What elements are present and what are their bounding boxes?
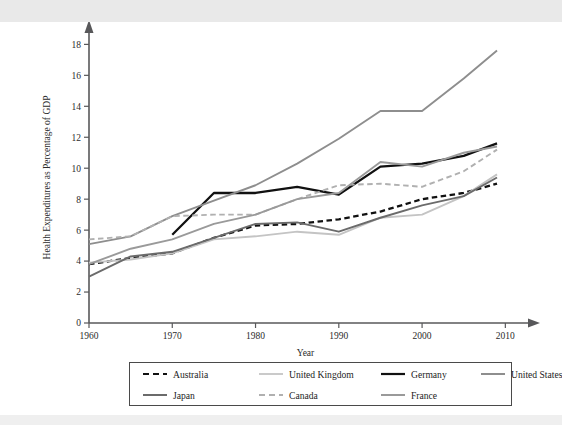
legend-label: Germany [411, 369, 447, 380]
legend-swatch-japan [142, 389, 168, 401]
x-tick-label: 1970 [163, 331, 182, 341]
series-line-united-states [89, 51, 497, 244]
series-line-france [89, 147, 497, 265]
chart-canvas: 024681012141618196019701980199020002010Y… [22, 22, 540, 415]
axis-label-group: 024681012141618196019701980199020002010Y… [42, 40, 515, 358]
legend-label: United Kingdom [289, 369, 354, 380]
axis-group [84, 22, 540, 328]
x-axis-title: Year [297, 348, 315, 358]
y-tick-label: 8 [76, 195, 81, 205]
legend-label: Japan [173, 390, 195, 401]
legend-item-canada[interactable]: Canada [258, 389, 318, 401]
legend-label: France [411, 390, 437, 401]
legend-item-australia[interactable]: Australia [142, 368, 208, 380]
legend-item-germany[interactable]: Germany [380, 368, 447, 380]
y-tick-label: 6 [76, 226, 81, 236]
legend-swatch-france [380, 389, 406, 401]
x-tick-label: 1960 [80, 331, 99, 341]
legend-swatch-united-kingdom [258, 368, 284, 380]
y-tick-label: 0 [76, 318, 81, 328]
y-tick-label: 12 [72, 133, 82, 143]
legend-row-1: AustraliaUnited KingdomGermanyUnited Sta… [130, 363, 511, 385]
chart-legend: AustraliaUnited KingdomGermanyUnited Sta… [129, 362, 512, 406]
legend-swatch-canada [258, 389, 284, 401]
y-tick-label: 10 [72, 164, 82, 174]
y-tick-label: 4 [76, 256, 81, 266]
x-tick-label: 2000 [413, 331, 432, 341]
y-tick-label: 2 [76, 287, 81, 297]
legend-label: Australia [173, 369, 208, 380]
bottom-page-band [0, 415, 562, 425]
top-page-band [0, 0, 562, 22]
legend-item-france[interactable]: France [380, 389, 437, 401]
line-chart-figure: 024681012141618196019701980199020002010Y… [22, 22, 540, 415]
x-tick-label: 1980 [246, 331, 265, 341]
legend-label: United States [511, 369, 562, 380]
series-line-australia [89, 184, 497, 264]
page-sheet: 024681012141618196019701980199020002010Y… [22, 22, 540, 415]
legend-item-united-states[interactable]: United States [480, 368, 562, 380]
legend-swatch-germany [380, 368, 406, 380]
y-axis-arrow [85, 22, 94, 33]
legend-item-united-kingdom[interactable]: United Kingdom [258, 368, 354, 380]
x-tick-label: 2010 [496, 331, 515, 341]
legend-row-2: JapanCanadaFrance [130, 384, 511, 406]
series-group [89, 51, 497, 277]
x-axis-arrow [528, 319, 540, 328]
series-line-canada [89, 150, 497, 240]
y-tick-label: 14 [72, 102, 82, 112]
x-tick-label: 1990 [329, 331, 348, 341]
legend-swatch-australia [142, 368, 168, 380]
legend-item-japan[interactable]: Japan [142, 389, 195, 401]
y-tick-label: 18 [72, 40, 82, 50]
legend-swatch-united-states [480, 368, 506, 380]
y-tick-label: 16 [72, 71, 82, 81]
legend-label: Canada [289, 390, 318, 401]
y-axis-title: Health Expenditures as Percentage of GDP [42, 96, 52, 260]
